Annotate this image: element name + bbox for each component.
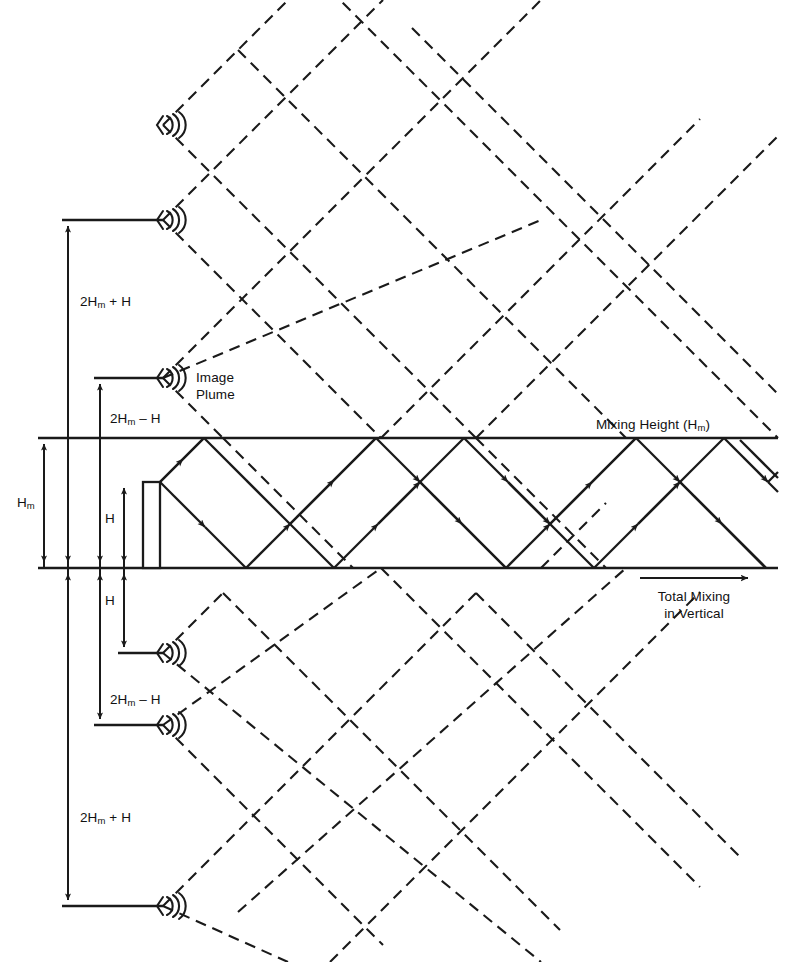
dim-label-2hm-minus-h-upper: 2Hm – H	[110, 411, 161, 428]
dim-label-2hm-plus-h-lower: 2Hm + H	[80, 810, 131, 827]
stack-outline	[143, 482, 160, 568]
dimension-arrows	[44, 226, 124, 900]
dim-label-h-below: H	[105, 593, 115, 610]
figure-canvas: Mixing Height (Hm) ImagePlume Total Mixi…	[0, 0, 792, 962]
dim-label-h-above: H	[105, 511, 115, 528]
total-mixing-label: Total Mixingin Vertical	[634, 589, 754, 623]
mixing-height-label: Mixing Height (Hm)	[596, 417, 710, 434]
dim-label-2hm-minus-h-lower: 2Hm – H	[110, 692, 161, 709]
source-icon-top	[157, 112, 186, 138]
real-plume-rays	[160, 438, 778, 568]
source-icons	[157, 112, 186, 919]
dim-label-hm: Hm	[17, 495, 35, 512]
dim-label-2hm-plus-h-upper: 2Hm + H	[80, 294, 131, 311]
image-plume-rays	[163, 0, 778, 962]
image-plume-label: ImagePlume	[196, 370, 235, 404]
